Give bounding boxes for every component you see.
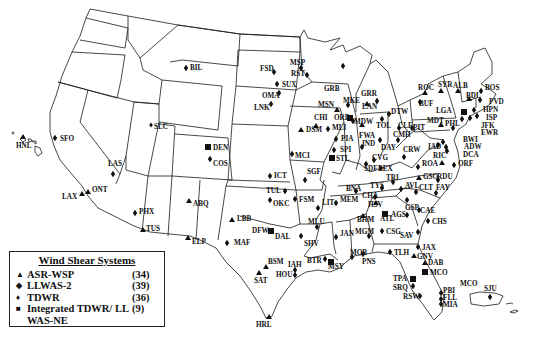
site-label: LAX	[62, 193, 78, 201]
diamond-icon	[316, 205, 320, 211]
site-label: ISP	[486, 114, 498, 122]
site-label: SAV	[400, 232, 414, 240]
site-label: BIL	[190, 64, 203, 72]
site-label: RIC	[433, 152, 446, 160]
diamond-icon	[225, 240, 229, 246]
site-label: LIT	[322, 199, 335, 207]
site-label: MSN	[318, 101, 335, 109]
legend-count: (36)	[132, 292, 158, 304]
site-label: MDW	[354, 118, 374, 126]
diamond-icon	[475, 113, 479, 119]
site-label: OMA	[262, 92, 280, 100]
site-label: HPN	[483, 106, 499, 114]
diamond-icon	[488, 294, 492, 300]
site-label: PIT	[413, 124, 425, 132]
diamond-icon	[111, 171, 115, 177]
diamond-icon	[426, 218, 430, 224]
diamond-icon	[323, 256, 327, 262]
site-label: DCA	[463, 151, 479, 159]
diamond-icon	[452, 162, 456, 168]
site-label: DAL	[275, 233, 290, 241]
legend-item-tdwr: ♦ TDWR (36)	[16, 292, 158, 304]
diamond-icon	[416, 229, 420, 235]
site-label: MEM	[340, 196, 359, 204]
site-label: CLE	[398, 122, 413, 130]
diamond-icon	[472, 107, 476, 113]
site-label: BDL	[466, 92, 481, 100]
site-label: MGM	[355, 228, 374, 236]
site-label: ONT	[92, 186, 108, 194]
site-label: DTW	[391, 108, 409, 116]
site-label: LAS	[108, 160, 122, 168]
site-label: BNA	[346, 185, 362, 193]
site-label: BSM	[268, 258, 284, 266]
site-label: PNS	[362, 258, 376, 266]
square-icon: ■	[16, 303, 27, 315]
site-label: RDU	[437, 173, 453, 181]
site-label: ABQ	[193, 200, 209, 208]
legend-label: Integrated TDWR/ LL WAS-NE	[27, 303, 132, 326]
site-label: OKC	[273, 200, 289, 208]
site-label: AVL	[405, 182, 419, 190]
puerto-rico	[470, 292, 518, 313]
triangle-icon	[229, 217, 235, 222]
diamond-icon	[283, 188, 287, 194]
diamond-icon	[290, 151, 294, 157]
site-label: STL	[336, 155, 350, 163]
site-label: MCO	[430, 269, 448, 277]
site-label: IND	[362, 140, 375, 148]
site-label: FSD	[260, 65, 274, 73]
site-label: PIA	[341, 135, 354, 143]
diamond-icon	[341, 63, 345, 69]
legend-title: Wind Shear Systems	[16, 255, 158, 267]
diamond-icon	[303, 177, 307, 183]
site-label: JAN	[340, 230, 355, 238]
site-label: DAY	[381, 144, 397, 152]
site-label: SHV	[304, 240, 320, 248]
site-label: ICT	[274, 172, 287, 180]
site-label: SYR	[438, 81, 453, 89]
site-label: IAD	[428, 143, 441, 151]
legend-item-integrated-tdwr: ■ Integrated TDWR/ LL WAS-NE (9)	[16, 303, 158, 326]
site-label: CMH	[393, 131, 411, 139]
legend-box: Wind Shear Systems ▲ ASR-WSP (34) ◆ LLWA…	[9, 251, 165, 327]
site-label: ORD	[334, 114, 350, 122]
legend-label: TDWR	[27, 292, 132, 304]
diamond-icon	[208, 156, 212, 162]
site-label: RSW	[403, 293, 420, 301]
site-label: PVD	[489, 98, 504, 106]
site-label: JAX	[422, 244, 437, 252]
site-label: BUF	[419, 100, 434, 108]
square-icon	[461, 109, 467, 115]
site-label: SDF	[364, 165, 378, 173]
diamond-icon	[299, 233, 303, 239]
site-label: MLU	[308, 218, 326, 226]
site-label: DAB	[428, 259, 443, 267]
site-label: SPI	[340, 146, 351, 154]
legend-label: LLWAS-2	[27, 280, 132, 292]
diamond-icon	[416, 244, 420, 250]
legend-count: (34)	[132, 269, 158, 281]
site-label: MIA	[443, 301, 459, 309]
diamond-icon	[133, 210, 137, 216]
site-label: SFO	[60, 135, 74, 143]
diamond-icon	[334, 234, 338, 240]
site-label: DFW	[252, 227, 270, 235]
diamond-icon	[268, 197, 272, 203]
site-label: TUS	[146, 225, 160, 233]
site-label: GSP	[405, 204, 420, 212]
square-icon	[329, 155, 335, 161]
site-label: FSM	[299, 196, 314, 204]
site-label: CHI	[314, 114, 328, 122]
site-label: RST	[291, 70, 305, 78]
triangle-icon	[85, 189, 91, 194]
site-label: PHL	[445, 120, 460, 128]
diamond-icon	[399, 186, 403, 192]
diamond-icon	[268, 173, 272, 179]
site-label: MCO	[460, 280, 478, 288]
diamond-icon	[402, 154, 406, 160]
triangle-icon	[439, 160, 445, 165]
site-label: GRR	[361, 90, 378, 98]
diamond-icon	[468, 115, 472, 121]
site-label: MCI	[295, 152, 310, 160]
